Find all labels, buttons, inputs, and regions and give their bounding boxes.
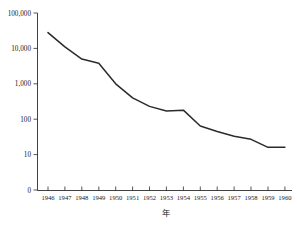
- line-chart: 100,000 10,000 1,000 100 10 0: [0, 0, 297, 228]
- x-tick-label: 1956: [211, 194, 225, 201]
- x-tick-labels: 1946 1947 1948 1949 1950 1951 1952 1953 …: [41, 194, 292, 201]
- x-tick-label: 1955: [194, 194, 208, 201]
- y-tick-label: 10: [24, 151, 32, 159]
- x-tick-label: 1950: [109, 194, 123, 201]
- x-tick-label: 1960: [278, 194, 292, 201]
- chart-figure: 100,000 10,000 1,000 100 10 0: [0, 0, 297, 228]
- x-tick-label: 1953: [160, 194, 174, 201]
- x-tick-label: 1959: [261, 194, 275, 201]
- x-tick-label: 1949: [92, 194, 106, 201]
- x-tick-label: 1958: [244, 194, 258, 201]
- y-tick-label: 0: [27, 187, 31, 195]
- y-tick-label: 100: [20, 116, 31, 124]
- x-tick-label: 1946: [41, 194, 55, 201]
- x-tick-label: 1952: [143, 194, 156, 201]
- x-tick-label: 1951: [126, 194, 139, 201]
- x-tick-label: 1947: [58, 194, 72, 201]
- x-tick-label: 1948: [75, 194, 89, 201]
- y-tick-label: 1,000: [15, 80, 32, 88]
- x-axis-title: 年: [162, 208, 170, 218]
- y-tick-label: 100,000: [8, 10, 32, 18]
- x-tick-label: 1957: [228, 194, 242, 201]
- y-tick-label: 10,000: [11, 45, 31, 53]
- x-tick-label: 1954: [177, 194, 191, 201]
